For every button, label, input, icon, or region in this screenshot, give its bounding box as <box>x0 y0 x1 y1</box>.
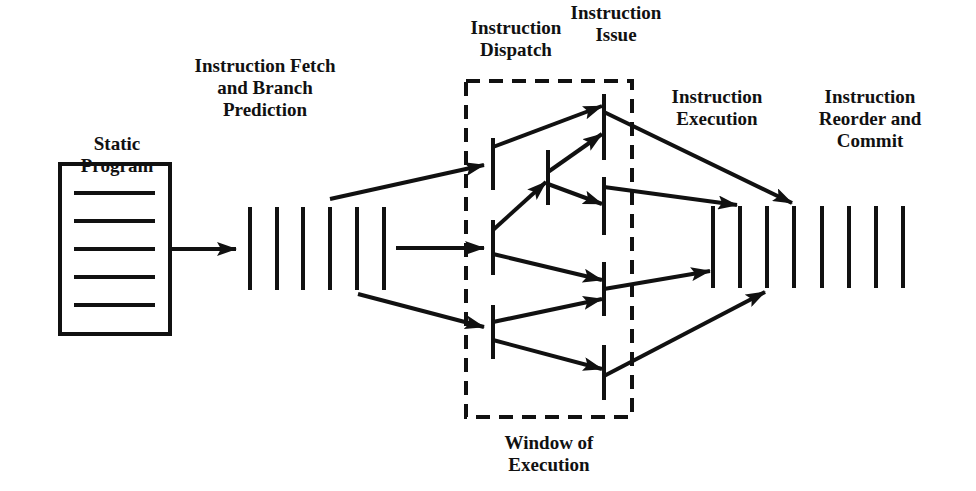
window-of-execution-box <box>466 81 632 417</box>
arrows-fetch-to-dispatch <box>330 165 484 327</box>
reorder-commit-bars <box>713 206 903 288</box>
arrows-dispatch-to-issue <box>493 106 602 369</box>
dispatch-bars <box>493 138 548 359</box>
static-program-box <box>60 164 170 334</box>
fetch-instruction-bars <box>250 207 384 290</box>
pipeline-diagram <box>0 0 976 491</box>
